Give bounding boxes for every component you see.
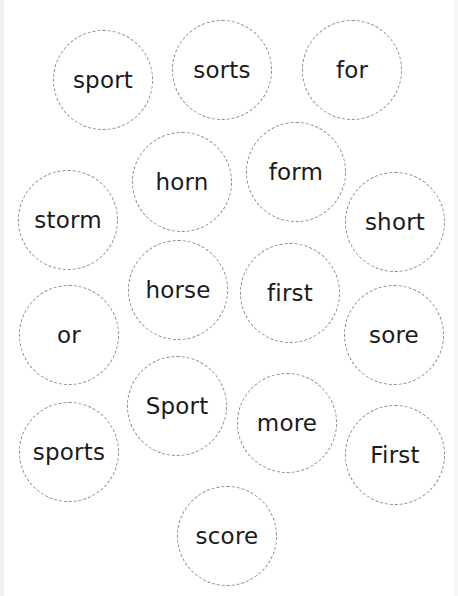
word-label: sorts	[193, 57, 251, 83]
word-label: Sport	[146, 393, 209, 419]
word-label: horn	[155, 169, 208, 195]
word-label: short	[365, 209, 425, 235]
word-label: more	[257, 410, 317, 436]
word-bubble-sport[interactable]: sport	[53, 30, 153, 130]
word-label: storm	[34, 207, 102, 233]
word-bubble-horse[interactable]: horse	[128, 240, 228, 340]
page-edge-right	[454, 0, 458, 596]
word-label: sport	[73, 67, 133, 93]
word-label: for	[336, 57, 368, 83]
word-bubble-first[interactable]: first	[240, 243, 340, 343]
word-bubble-form[interactable]: form	[246, 122, 346, 222]
word-bubble-First-capitalized[interactable]: First	[345, 405, 445, 505]
word-label: horse	[145, 277, 210, 303]
word-bubble-for[interactable]: for	[302, 20, 402, 120]
word-bubble-more[interactable]: more	[237, 373, 337, 473]
page-edge-left	[0, 0, 4, 596]
word-bubble-storm[interactable]: storm	[18, 170, 118, 270]
word-bubble-Sport-capitalized[interactable]: Sport	[127, 356, 227, 456]
word-bubble-or[interactable]: or	[19, 285, 119, 385]
word-label: sore	[369, 322, 419, 348]
word-bubble-score[interactable]: score	[177, 486, 277, 586]
word-bubble-horn[interactable]: horn	[132, 132, 232, 232]
word-label: form	[269, 159, 323, 185]
word-label: first	[267, 280, 313, 306]
word-label: score	[196, 523, 259, 549]
word-label: First	[370, 442, 419, 468]
word-label: sports	[33, 439, 105, 465]
word-bubble-sore[interactable]: sore	[344, 285, 444, 385]
word-bubble-short[interactable]: short	[345, 172, 445, 272]
word-label: or	[57, 322, 81, 348]
word-bubble-sports[interactable]: sports	[19, 402, 119, 502]
word-bubble-sorts[interactable]: sorts	[172, 20, 272, 120]
